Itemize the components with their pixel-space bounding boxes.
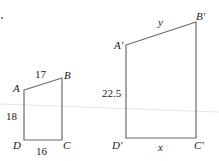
similar-figures-diagram: A B C D 17 18 16 A' B' C' D' y 22.5 x (0, 0, 219, 161)
side-dc-prime-length: x (157, 141, 163, 153)
vertex-a-prime-label: A' (113, 39, 124, 51)
side-ab-prime-length: y (157, 16, 163, 28)
vertex-c-label: C (63, 139, 71, 151)
faint-scan-line (0, 104, 219, 112)
quadrilateral-abcd (24, 78, 62, 140)
vertex-b-label: B (64, 69, 71, 81)
side-ab-length: 17 (35, 68, 47, 80)
side-dc-length: 16 (36, 145, 48, 157)
side-ad-length: 18 (6, 110, 18, 122)
corner-mark (1, 17, 3, 19)
vertex-c-prime-label: C' (194, 139, 204, 151)
vertex-d-prime-label: D' (111, 139, 123, 151)
quadrilateral-abcd-prime (126, 22, 196, 138)
vertex-b-prime-label: B' (196, 10, 206, 22)
vertex-a-label: A (12, 82, 20, 94)
side-ad-prime-length: 22.5 (102, 87, 122, 99)
vertex-d-label: D (12, 139, 21, 151)
